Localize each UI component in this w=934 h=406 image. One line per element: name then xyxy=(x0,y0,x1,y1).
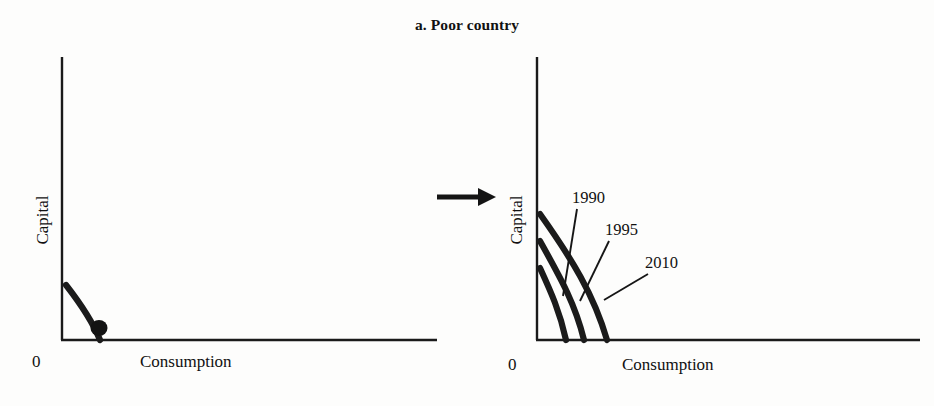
figure-poor-country: a. Poor country xyxy=(0,0,934,406)
y-axis-label-right: Capital xyxy=(507,175,527,265)
figure-canvas xyxy=(0,0,934,406)
leader-line-2010 xyxy=(604,274,648,300)
allocation-point-marker xyxy=(91,320,108,336)
leader-line-1995 xyxy=(580,241,609,301)
transition-arrow xyxy=(437,188,496,206)
x-axis-label-left: Consumption xyxy=(140,352,232,372)
y-axis-label-left: Capital xyxy=(33,175,53,265)
curve-label-1990: 1990 xyxy=(572,188,605,208)
curve-label-2010: 2010 xyxy=(645,253,678,273)
panel-before xyxy=(61,57,437,340)
origin-label-left: 0 xyxy=(32,352,41,372)
origin-label-right: 0 xyxy=(508,355,517,375)
x-axis-label-right: Consumption xyxy=(622,355,714,375)
curve-label-1995: 1995 xyxy=(605,220,638,240)
